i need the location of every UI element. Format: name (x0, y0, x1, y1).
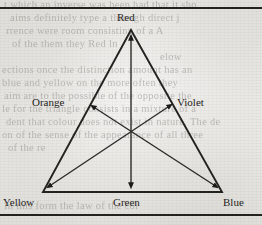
top-horizontal-rule (0, 7, 262, 9)
scanned-page: t which an inverse was been had that it … (0, 0, 262, 225)
axis-blue-orange (92, 106, 217, 187)
color-triangle-diagram (0, 0, 262, 225)
midpoint-label-violet: Violet (177, 96, 204, 108)
vertex-label-red: Red (117, 11, 135, 23)
vertex-label-blue: Blue (223, 196, 244, 208)
midpoint-label-orange: Orange (32, 96, 64, 108)
triangle-outline (43, 30, 222, 192)
bottom-horizontal-rule (0, 214, 262, 216)
midpoint-label-green: Green (113, 196, 140, 208)
vertex-label-yellow: Yellow (3, 196, 34, 208)
triangle-side-path (43, 30, 222, 192)
